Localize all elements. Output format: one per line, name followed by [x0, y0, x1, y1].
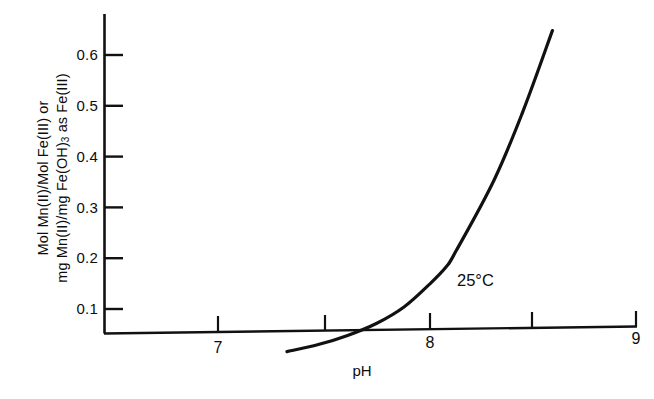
chart-figure: Mol Mn(II)/Mol Fe(III) or mg Mn(II)/mg F… [0, 0, 654, 399]
y-axis-ticks [105, 55, 123, 309]
data-series-line [287, 31, 552, 352]
plot-area [0, 0, 654, 399]
